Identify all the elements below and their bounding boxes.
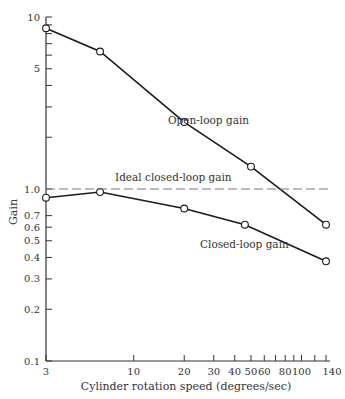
y-tick-label: 5 — [34, 63, 40, 74]
x-tick-label: 80 — [279, 366, 292, 377]
data-point-marker — [43, 194, 50, 201]
data-point-marker — [248, 163, 255, 170]
y-tick-label: 0.5 — [24, 235, 40, 246]
data-point-marker — [323, 221, 330, 228]
open-loop-gain-line — [46, 28, 326, 224]
y-tick-label: 10 — [27, 12, 40, 23]
data-point-marker — [323, 258, 330, 265]
data-point-marker — [97, 48, 104, 55]
x-tick-label: 30 — [207, 366, 220, 377]
x-axis-title: Cylinder rotation speed (degrees/sec) — [81, 380, 291, 393]
ideal-closed-loop-gain-label: Ideal closed-loop gain — [115, 171, 232, 183]
data-point-marker — [97, 189, 104, 196]
x-tick-label: 20 — [178, 366, 191, 377]
y-axis-title: Gain — [7, 199, 20, 225]
y-tick-label: 0.4 — [24, 252, 40, 263]
y-tick-label: 1.0 — [24, 184, 40, 195]
y-tick-label: 0.1 — [24, 356, 40, 367]
x-tick-label: 10 — [127, 366, 140, 377]
y-tick-label: 0.7 — [24, 210, 40, 221]
x-tick-label: 140 — [322, 366, 341, 377]
x-tick-label: 60 — [258, 366, 271, 377]
series-layer — [43, 25, 330, 265]
open-loop-gain-label: Open-loop gain — [168, 114, 249, 126]
y-tick-label: 0.6 — [24, 222, 40, 233]
x-tick-label: 50 — [245, 366, 258, 377]
x-tick-label: 40 — [228, 366, 241, 377]
data-point-marker — [43, 25, 50, 32]
x-tick-label: 3 — [43, 366, 49, 377]
gain-vs-speed-chart: 0.10.20.30.40.50.60.71.05103102030405060… — [0, 0, 345, 399]
data-point-marker — [181, 205, 188, 212]
y-tick-label: 0.3 — [24, 273, 40, 284]
y-tick-label: 0.2 — [24, 304, 40, 315]
data-point-marker — [242, 221, 249, 228]
x-tick-label: 100 — [292, 366, 311, 377]
closed-loop-gain-label: Closed-loop gain — [200, 238, 289, 250]
plot-area: 0.10.20.30.40.50.60.71.05103102030405060… — [0, 0, 345, 399]
closed-loop-gain-line — [46, 192, 326, 261]
